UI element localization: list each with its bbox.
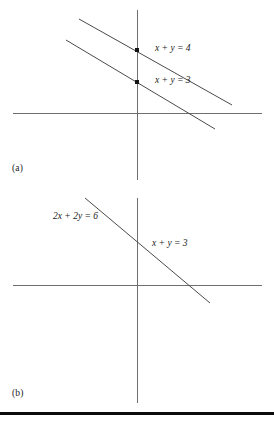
panel-b-label-left: 2x + 2y = 6 [53, 211, 98, 221]
panel-b-graph: 2x + 2y = 6 x + y = 3 [0, 0, 274, 425]
panel-b-line [85, 198, 210, 303]
panel-b-label-right: x + y = 3 [151, 238, 188, 248]
figure-root: x + y = 4 x + y = 3 (a) 2x + 2y = 6 x + … [0, 0, 274, 425]
bottom-divider-rule [0, 412, 274, 415]
panel-b-caption: (b) [12, 388, 24, 398]
